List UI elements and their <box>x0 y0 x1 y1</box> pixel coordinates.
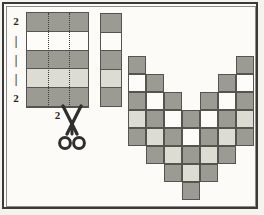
chevron-cell-r3-c4-white <box>200 110 218 128</box>
strip-cell-4-dark <box>101 88 121 106</box>
grid-row-2-dark <box>27 51 88 70</box>
chevron-cell-r3-c6-light <box>236 110 254 128</box>
chevron-cell-r2-c0-dark <box>128 92 146 110</box>
v-chevron-block <box>128 56 254 201</box>
chevron-cell-r2-c2-dark <box>164 92 182 110</box>
chevron-cell-r1-c1-dark <box>146 74 164 92</box>
chevron-cell-r5-c3-dark <box>182 146 200 164</box>
chevron-cell-r6-c3-light <box>182 164 200 182</box>
chevron-cell-r7-c3-dark <box>182 182 200 200</box>
chevron-cell-r3-c5-dark <box>218 110 236 128</box>
chevron-cell-r4-c4-dark <box>200 128 218 146</box>
row-label-column: 2 | | | 2 <box>8 12 24 108</box>
strip-cell-3-light <box>101 70 121 89</box>
chevron-cell-r4-c2-dark <box>164 128 182 146</box>
row-label-1: | <box>8 31 24 50</box>
strip-cell-1-white <box>101 33 121 52</box>
row-label-0: 2 <box>8 12 24 31</box>
chevron-cell-r6-c2-dark <box>164 164 182 182</box>
guide-line-2 <box>69 13 70 107</box>
row-label-2: | <box>8 50 24 69</box>
grid-row-0-dark <box>27 13 88 32</box>
strip-cell-0-dark <box>101 14 121 33</box>
chevron-cell-r0-c0-dark <box>128 56 146 74</box>
chevron-cell-r5-c1-dark <box>146 146 164 164</box>
left-grid-cells <box>26 12 89 108</box>
scissors-icon <box>55 104 89 152</box>
chevron-cell-r1-c0-white <box>128 74 146 92</box>
strip-cell-2-dark <box>101 51 121 70</box>
chevron-cell-r4-c5-light <box>218 128 236 146</box>
chevron-cell-r5-c5-dark <box>218 146 236 164</box>
chevron-cell-r4-c3-white <box>182 128 200 146</box>
chevron-cell-r4-c1-light <box>146 128 164 146</box>
chevron-cell-r1-c6-white <box>236 74 254 92</box>
chevron-cell-r2-c1-white <box>146 92 164 110</box>
single-column-strip <box>100 13 122 107</box>
left-swatch-grid: 2 | | | 2 2 <box>8 12 92 116</box>
chevron-cell-r0-c6-dark <box>236 56 254 74</box>
row-label-4: 2 <box>8 89 24 108</box>
figure-page: 2 | | | 2 2 <box>0 0 264 215</box>
chevron-cell-r3-c1-dark <box>146 110 164 128</box>
chevron-cell-r1-c5-dark <box>218 74 236 92</box>
chevron-cell-r4-c6-dark <box>236 128 254 146</box>
chevron-cell-r2-c6-dark <box>236 92 254 110</box>
row-label-3: | <box>8 70 24 89</box>
grid-row-3-light <box>27 69 88 88</box>
chevron-cell-r4-c0-dark <box>128 128 146 146</box>
chevron-cell-r3-c2-white <box>164 110 182 128</box>
chevron-cell-r5-c4-light <box>200 146 218 164</box>
chevron-cell-r2-c4-dark <box>200 92 218 110</box>
chevron-cell-r6-c4-dark <box>200 164 218 182</box>
chevron-cell-r3-c0-light <box>128 110 146 128</box>
chevron-cell-r3-c3-dark <box>182 110 200 128</box>
grid-row-1-white <box>27 32 88 51</box>
chevron-cell-r2-c5-white <box>218 92 236 110</box>
guide-line-1 <box>48 13 49 107</box>
chevron-cell-r5-c2-light <box>164 146 182 164</box>
